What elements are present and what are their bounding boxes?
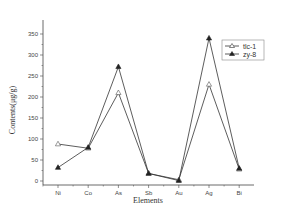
filled-triangle-marker [206, 35, 211, 40]
series-lines [55, 35, 241, 182]
y-tick-label: 350 [28, 31, 39, 37]
legend-label-zy-8: zy-8 [243, 51, 256, 59]
y-tick-label: 300 [28, 52, 39, 58]
y-tick-label: 200 [28, 94, 39, 100]
legend: tlc-1 zy-8 [222, 40, 264, 60]
series-line-zy-8 [58, 38, 239, 180]
line-chart: 050100150200250300350NiCoAsSbAuAgBi Elem… [0, 0, 283, 222]
x-tick-label: As [115, 190, 122, 196]
y-tick-label: 0 [35, 178, 39, 184]
filled-triangle-marker [116, 64, 121, 69]
y-axis-title: Contents(μg/g) [8, 86, 17, 135]
y-tick-label: 150 [28, 115, 39, 121]
y-tick-label: 50 [31, 157, 38, 163]
x-tick-label: Au [175, 190, 182, 196]
open-triangle-marker [55, 141, 60, 146]
filled-triangle-marker [237, 166, 242, 171]
open-triangle-marker [116, 90, 121, 95]
x-tick-label: Bi [237, 190, 242, 196]
series-line-tlc-1 [58, 84, 239, 179]
axes: 050100150200250300350NiCoAsSbAuAgBi [28, 20, 254, 196]
filled-triangle-marker [55, 165, 60, 170]
legend-label-tlc-1: tlc-1 [243, 43, 256, 50]
open-triangle-marker [206, 82, 211, 87]
x-tick-label: Co [84, 190, 92, 196]
x-tick-label: Ag [205, 190, 212, 196]
y-tick-label: 100 [28, 136, 39, 142]
x-axis-title: Elements [133, 196, 163, 205]
filled-triangle-marker [146, 171, 151, 176]
y-tick-label: 250 [28, 73, 39, 79]
x-tick-label: Ni [55, 190, 61, 196]
